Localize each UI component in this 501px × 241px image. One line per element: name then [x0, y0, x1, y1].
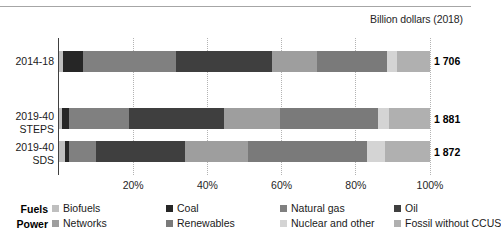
legend: Fuels Power BiofuelsCoalNatural gasOilNe… [0, 200, 471, 234]
bar-segment [378, 108, 389, 129]
legend-item-label: Nuclear and other [291, 217, 374, 229]
legend-item-fossil-without-ccus[interactable]: Fossil without CCUS [394, 217, 501, 229]
bar-segment [63, 51, 83, 72]
x-tick-label: 80% [345, 179, 366, 191]
legend-row-title-power: Power [4, 218, 48, 230]
legend-item-networks[interactable]: Networks [52, 217, 107, 229]
legend-swatch-icon [166, 205, 173, 212]
category-label-line: 2019-40 [0, 141, 54, 154]
legend-row-title-fuels: Fuels [4, 203, 48, 215]
legend-swatch-icon [394, 205, 401, 212]
bar-segment [389, 108, 430, 129]
category-label-line: 2014-18 [0, 55, 54, 68]
legend-item-nuclear-and-other[interactable]: Nuclear and other [280, 217, 374, 229]
bar-value-label: 1 881 [434, 113, 460, 125]
category-label-line: STEPS [0, 123, 54, 136]
category-label: 2019-40STEPS [0, 110, 54, 135]
bar-segment [248, 141, 367, 162]
bar-segment [272, 51, 317, 72]
bar-row [59, 108, 430, 129]
bar-value-label: 1 872 [434, 146, 460, 158]
legend-item-renewables[interactable]: Renewables [166, 217, 235, 229]
legend-swatch-icon [280, 220, 287, 227]
legend-item-label: Coal [177, 202, 199, 214]
legend-swatch-icon [166, 220, 173, 227]
bar-segment [185, 141, 248, 162]
legend-item-label: Fossil without CCUS [405, 217, 501, 229]
legend-swatch-icon [394, 220, 401, 227]
bar-segment [387, 51, 396, 72]
top-divider [0, 6, 471, 7]
legend-item-biofuels[interactable]: Biofuels [52, 202, 100, 214]
bar-segment [385, 141, 430, 162]
legend-item-natural-gas[interactable]: Natural gas [280, 202, 345, 214]
bar-segment [280, 108, 378, 129]
category-label-line: SDS [0, 154, 54, 167]
bar-segment [96, 141, 185, 162]
category-label: 2014-18 [0, 55, 54, 68]
legend-swatch-icon [280, 205, 287, 212]
bar-row [59, 51, 430, 72]
legend-item-oil[interactable]: Oil [394, 202, 418, 214]
category-label: 2019-40SDS [0, 141, 54, 166]
bar-row [59, 141, 430, 162]
x-tick-label: 60% [271, 179, 292, 191]
bar-segment [317, 51, 387, 72]
bar-segment [367, 141, 386, 162]
x-tick-label: 100% [417, 179, 444, 191]
legend-swatch-icon [52, 220, 59, 227]
bar-segment [176, 51, 272, 72]
category-label-line: 2019-40 [0, 110, 54, 123]
x-tick-label: 40% [197, 179, 218, 191]
legend-item-label: Networks [63, 217, 107, 229]
bar-segment [69, 141, 96, 162]
legend-swatch-icon [52, 205, 59, 212]
bar-segment [397, 51, 430, 72]
bar-segment [224, 108, 280, 129]
bar-segment [129, 108, 224, 129]
bar-value-label: 1 706 [434, 55, 460, 67]
bar-segment [62, 108, 69, 129]
legend-item-label: Biofuels [63, 202, 100, 214]
legend-item-coal[interactable]: Coal [166, 202, 199, 214]
bar-segment [69, 108, 129, 129]
unit-caption: Billion dollars (2018) [370, 13, 463, 25]
legend-item-label: Natural gas [291, 202, 345, 214]
bar-segment [83, 51, 176, 72]
x-tick-label: 20% [123, 179, 144, 191]
legend-item-label: Renewables [177, 217, 235, 229]
legend-item-label: Oil [405, 202, 418, 214]
